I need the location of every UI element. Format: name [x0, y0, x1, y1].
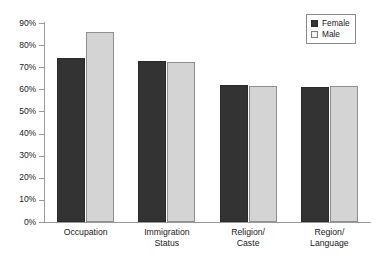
bar-female[interactable]	[301, 87, 329, 222]
y-axis-tick	[39, 156, 44, 157]
chart-legend: Female Male	[306, 14, 356, 44]
y-axis-tick	[39, 111, 44, 112]
y-axis-tick-label: 30%	[0, 151, 36, 160]
y-axis-tick-label: 70%	[0, 63, 36, 72]
legend-label-male: Male	[322, 30, 340, 39]
bar-group	[138, 23, 195, 222]
y-axis-tick	[39, 200, 44, 201]
bar-female[interactable]	[57, 58, 85, 222]
legend-label-female: Female	[322, 19, 350, 28]
bar-male[interactable]	[330, 86, 358, 222]
bar-group	[220, 23, 277, 222]
y-axis-tick	[39, 178, 44, 179]
y-axis-tick-label: 90%	[0, 19, 36, 28]
y-axis-tick-label: 10%	[0, 195, 36, 204]
plot-area	[45, 23, 370, 222]
x-axis-tick-label-line: Region/	[281, 227, 377, 238]
bar-female[interactable]	[138, 61, 166, 222]
bar-group	[57, 23, 114, 222]
y-axis-tick-label: 50%	[0, 107, 36, 116]
bar-chart: 0%10%20%30%40%50%60%70%80%90% Occupation…	[0, 0, 377, 262]
bar-female[interactable]	[220, 85, 248, 222]
bar-male[interactable]	[167, 62, 195, 222]
x-axis-line	[44, 222, 371, 223]
bar-male[interactable]	[86, 32, 114, 222]
y-axis-tick	[39, 222, 44, 223]
y-axis-tick	[39, 134, 44, 135]
x-axis-tick-label-line: Language	[281, 238, 377, 249]
y-axis-tick-label: 40%	[0, 129, 36, 138]
y-axis-tick-label: 80%	[0, 41, 36, 50]
y-axis-tick	[39, 45, 44, 46]
bar-group	[301, 23, 358, 222]
legend-item-male[interactable]: Male	[311, 29, 350, 40]
y-axis-tick	[39, 23, 44, 24]
x-axis-tick-label: Region/Language	[281, 227, 377, 248]
legend-item-female[interactable]: Female	[311, 18, 350, 29]
y-axis-tick-label: 60%	[0, 85, 36, 94]
bar-male[interactable]	[249, 86, 277, 222]
y-axis-tick-label: 0%	[0, 218, 36, 227]
legend-swatch-male-icon	[311, 31, 318, 38]
y-axis-tick-label: 20%	[0, 173, 36, 182]
y-axis-tick	[39, 67, 44, 68]
y-axis-tick	[39, 89, 44, 90]
legend-swatch-female-icon	[311, 20, 318, 27]
